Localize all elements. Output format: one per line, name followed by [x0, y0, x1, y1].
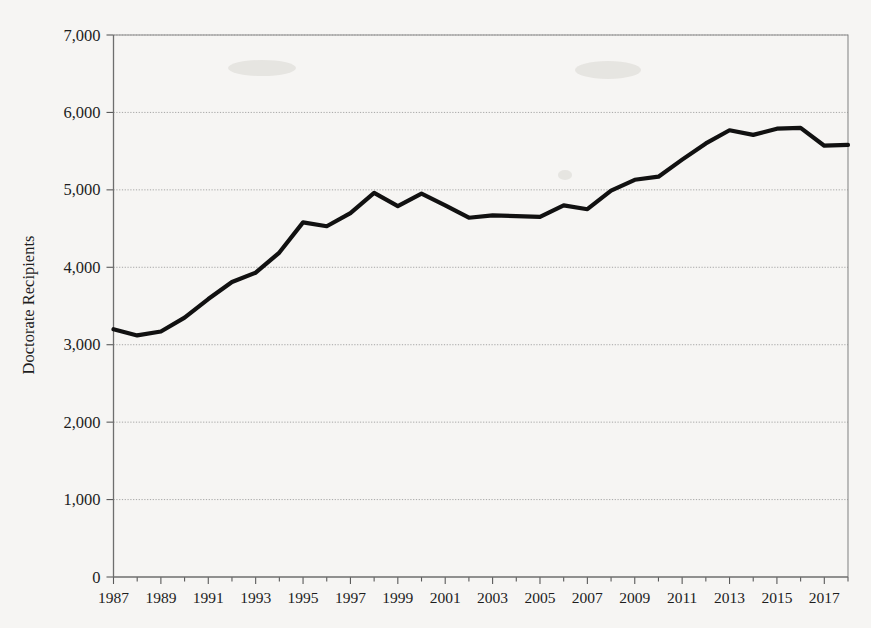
x-tick-label: 1997: [335, 589, 366, 606]
chart-figure: 7,0006,0005,0004,0003,0002,0001,0000 198…: [0, 0, 871, 628]
x-tick-label: 1995: [288, 589, 319, 606]
x-tick-label: 2017: [809, 589, 840, 606]
chart-background: [0, 0, 871, 628]
y-tick-label: 1,000: [63, 490, 100, 509]
y-tick-label: 5,000: [63, 180, 100, 199]
y-tick-label: 3,000: [63, 335, 100, 354]
x-tick-label: 2005: [524, 589, 555, 606]
x-tick-label: 1987: [98, 589, 129, 606]
x-tick-label: 2011: [667, 589, 697, 606]
x-tick-label: 2001: [430, 589, 461, 606]
y-axis-title: Doctorate Recipients: [19, 236, 38, 375]
x-tick-label: 2015: [761, 589, 792, 606]
x-tick-label: 1999: [382, 589, 413, 606]
x-tick-label: 1993: [240, 589, 271, 606]
y-tick-label: 7,000: [63, 26, 100, 45]
y-tick-label: 2,000: [63, 413, 100, 432]
y-tick-label: 0: [92, 568, 100, 587]
x-tick-label: 1991: [193, 589, 224, 606]
x-tick-label: 2009: [619, 589, 650, 606]
x-tick-label: 1989: [145, 589, 176, 606]
y-tick-label: 6,000: [63, 103, 100, 122]
line-chart: 7,0006,0005,0004,0003,0002,0001,0000 198…: [0, 0, 871, 628]
x-tick-label: 2007: [572, 589, 603, 606]
y-tick-label: 4,000: [63, 258, 100, 277]
x-tick-label: 2013: [714, 589, 745, 606]
x-tick-label: 2003: [477, 589, 508, 606]
